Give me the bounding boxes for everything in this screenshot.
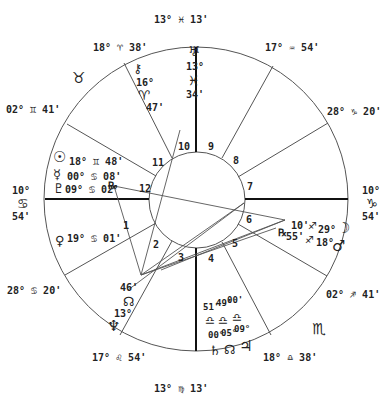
sun-position: 18° ♊ 48' xyxy=(69,156,123,167)
node-icon: ☊ xyxy=(123,295,135,308)
house-7: 7 xyxy=(247,181,253,192)
jupiter-icon: ♃ xyxy=(239,340,252,353)
mercury-icon: ☿ xyxy=(53,168,61,181)
sun-icon: ☉ xyxy=(53,151,66,164)
asc-min: 54' xyxy=(12,211,30,222)
neptune-icon: ♆ xyxy=(107,320,120,333)
node-south-sign-icon: ♎ xyxy=(218,314,228,327)
chiron-sign-icon: ♈ xyxy=(138,89,150,102)
house-11: 11 xyxy=(152,157,164,168)
taurus-icon: ♉ xyxy=(72,72,85,85)
mc-label: 13° ♓ 13' xyxy=(154,14,208,25)
sagittarius-icon-2: ♐ xyxy=(305,233,314,246)
jupiter-sign-icon: ♎ xyxy=(232,311,242,324)
dsc-deg: 10° xyxy=(362,185,380,196)
cusp-8-label: 28° ♑ 20' xyxy=(327,106,381,117)
ic-label: 13° ♍ 13' xyxy=(154,383,208,394)
retrograde-icon: ℞ xyxy=(108,180,117,191)
asc-deg: 10° xyxy=(12,185,30,196)
cusp-6-label: 02° ♐ 41' xyxy=(326,289,380,300)
aspect-line xyxy=(141,228,276,275)
house-5: 5 xyxy=(232,238,238,249)
cusp-2-label: 28° ♋ 20' xyxy=(7,285,61,296)
cusp-12-label: 02° ♊ 41' xyxy=(6,104,60,115)
jupiter-deg: 09° xyxy=(234,324,250,335)
moon-side-deg2: 55' xyxy=(286,231,304,242)
house-12: 12 xyxy=(139,183,151,194)
uranus-icon: ♅ xyxy=(188,45,200,58)
dsc-sign-icon: ♑ xyxy=(366,197,378,210)
cusp-5-label: 18° ♎ 38' xyxy=(263,352,317,363)
chiron-icon: ⚷ xyxy=(133,62,143,75)
dsc-min: 54' xyxy=(362,211,380,222)
uranus-sign-icon: ♓ xyxy=(188,74,200,87)
moon-icon: ☽ xyxy=(337,222,350,235)
house-9: 9 xyxy=(208,141,214,152)
node-min: 46' xyxy=(120,282,138,293)
house-1: 1 xyxy=(123,220,129,231)
south-node-icon: ☊ xyxy=(224,343,236,356)
cusp-3-label: 17° ♌ 54' xyxy=(92,352,146,363)
house-2: 2 xyxy=(153,239,159,250)
house-6: 6 xyxy=(246,214,252,225)
house-8: 8 xyxy=(233,155,239,166)
cusp-11-label: 18° ♈ 38' xyxy=(93,42,147,53)
chiron-min: 47' xyxy=(146,102,164,113)
moon-side-deg1: 10' xyxy=(291,220,309,231)
house-10: 10 xyxy=(178,141,190,152)
jupiter-min: 00' xyxy=(227,295,243,306)
saturn-icon: ♄ xyxy=(209,344,221,357)
venus-position: 19° ♋ 01' xyxy=(67,233,121,244)
moon-deg: 29° xyxy=(318,224,336,235)
house-4: 4 xyxy=(208,253,214,264)
uranus-min: 34' xyxy=(186,89,204,100)
venus-icon: ♀ xyxy=(55,234,65,247)
saturn-sign-icon: ♎ xyxy=(205,314,215,327)
retrograde-icon-right: ℞ xyxy=(278,227,287,238)
cusp-9 xyxy=(222,66,273,158)
scorpio-icon: ♏ xyxy=(312,323,325,336)
cusp-5 xyxy=(222,242,271,335)
cusp-2 xyxy=(65,223,156,275)
chiron-deg: 16° xyxy=(136,77,154,88)
asc-sign-icon: ♋ xyxy=(17,197,29,210)
cusp-9-label: 17° ♒ 54' xyxy=(265,42,319,53)
cusp-8 xyxy=(238,123,328,177)
house-3: 3 xyxy=(178,252,184,263)
aspect-line xyxy=(141,130,180,275)
uranus-deg: 13° xyxy=(186,61,204,72)
aspect-line xyxy=(128,203,244,290)
cusp-12 xyxy=(67,124,156,176)
sagittarius-icon: ♐ xyxy=(308,219,317,232)
pluto-icon: ♇ xyxy=(53,182,65,195)
mars-icon: ♂ xyxy=(332,240,345,253)
